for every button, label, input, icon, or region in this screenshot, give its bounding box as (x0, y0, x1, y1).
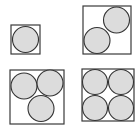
packing-panel-n3 (10, 70, 64, 124)
packed-circle (37, 70, 63, 96)
packed-circle (83, 70, 108, 95)
packed-circle (28, 96, 54, 122)
circle-packing-diagram (0, 0, 140, 131)
packed-circle (13, 27, 39, 53)
packed-circle (83, 96, 108, 121)
packed-circle (104, 7, 130, 33)
packed-circle (109, 96, 134, 121)
packing-panel-n1 (11, 25, 40, 54)
packing-panel-n2 (83, 6, 131, 54)
packing-panel-n4 (82, 69, 134, 121)
packed-circle (109, 70, 134, 95)
packed-circle (84, 28, 110, 54)
packed-circle (11, 73, 37, 99)
